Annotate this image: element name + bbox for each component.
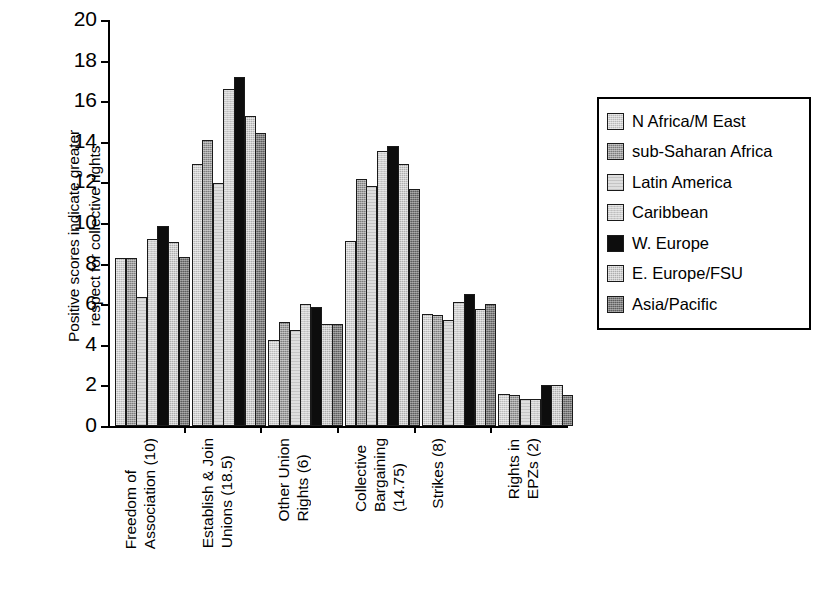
legend-item[interactable]: Latin America [607, 167, 801, 198]
y-tick-label: 12 [57, 170, 97, 192]
legend-label: Caribbean [632, 204, 708, 221]
legend-swatch-icon [607, 235, 624, 252]
y-tick-label: 6 [57, 292, 97, 314]
legend-swatch-icon [607, 174, 624, 191]
x-tick-mark [490, 426, 492, 433]
legend-swatch-icon [607, 265, 624, 282]
bar-chart-figure: Positive scores indicate greater respect… [0, 0, 830, 598]
bar [179, 257, 190, 427]
bar [356, 179, 367, 426]
bar [157, 226, 168, 426]
bar [300, 304, 311, 426]
bar [126, 258, 137, 426]
x-category-label: Freedom of Association (10) [121, 438, 159, 549]
y-tick-label: 16 [57, 89, 97, 111]
bar-group [115, 20, 189, 426]
legend-label: Asia/Pacific [632, 296, 717, 313]
bar [202, 140, 213, 426]
legend-item[interactable]: N Africa/M East [607, 106, 801, 137]
bar [245, 116, 256, 426]
y-tick-mark [101, 426, 108, 428]
bar [443, 320, 454, 426]
bar [147, 239, 158, 426]
y-tick-label: 18 [57, 49, 97, 71]
y-tick-mark [101, 345, 108, 347]
y-tick-mark [101, 101, 108, 103]
x-tick-mark [414, 426, 416, 433]
legend-swatch-icon [607, 113, 624, 130]
bar [520, 399, 531, 426]
bar [432, 315, 443, 426]
bar [541, 385, 552, 426]
x-tick-mark [260, 426, 262, 433]
bar [377, 151, 388, 426]
legend-item[interactable]: Asia/Pacific [607, 289, 801, 320]
legend-swatch-icon [607, 296, 624, 313]
legend-label: W. Europe [632, 235, 709, 252]
bar [332, 324, 343, 427]
y-tick-label: 8 [57, 252, 97, 274]
bar [530, 399, 541, 426]
x-tick-mark [184, 426, 186, 433]
bar [409, 189, 420, 427]
bar-group [422, 20, 496, 426]
legend-label: E. Europe/FSU [632, 265, 743, 282]
bar [255, 133, 266, 426]
bar [551, 385, 562, 426]
bar-group [192, 20, 266, 426]
legend-label: sub-Saharan Africa [632, 143, 772, 160]
bar [366, 186, 377, 426]
bar [475, 309, 486, 426]
plot-area: 02468101214161820 [108, 20, 568, 428]
y-tick-label: 0 [57, 414, 97, 436]
bar [509, 395, 520, 426]
y-tick-mark [101, 385, 108, 387]
legend-label: Latin America [632, 174, 732, 191]
x-category-label: Rights in EPZs (2) [504, 438, 542, 499]
legend-swatch-icon [607, 204, 624, 221]
bar [279, 322, 290, 426]
y-tick-mark [101, 182, 108, 184]
legend-item[interactable]: W. Europe [607, 228, 801, 259]
bar [213, 183, 224, 426]
y-tick-mark [101, 304, 108, 306]
bar-group [268, 20, 342, 426]
bar [192, 164, 203, 426]
bar [311, 307, 322, 426]
legend-item[interactable]: E. Europe/FSU [607, 259, 801, 290]
bar [168, 242, 179, 426]
legend-label: N Africa/M East [632, 113, 746, 130]
y-tick-mark [101, 20, 108, 22]
bar [234, 77, 245, 426]
bar [115, 258, 126, 426]
y-tick-mark [101, 142, 108, 144]
bar-group [345, 20, 419, 426]
x-tick-mark [337, 426, 339, 433]
y-tick-label: 20 [57, 8, 97, 30]
bar [498, 394, 509, 426]
y-tick-label: 10 [57, 211, 97, 233]
x-category-label: Strikes (8) [428, 438, 447, 509]
bar [321, 324, 332, 427]
x-category-label: Other Union Rights (6) [274, 438, 312, 522]
legend-item[interactable]: sub-Saharan Africa [607, 137, 801, 168]
y-tick-mark [101, 264, 108, 266]
bar [562, 395, 573, 426]
y-tick-label: 2 [57, 373, 97, 395]
x-category-label: Collective Bargaining (14.75) [351, 438, 408, 512]
bar-group [498, 20, 572, 426]
y-tick-mark [101, 223, 108, 225]
legend: N Africa/M Eastsub-Saharan AfricaLatin A… [597, 97, 811, 330]
bar [453, 302, 464, 426]
bar [136, 297, 147, 426]
y-tick-mark [101, 61, 108, 63]
bar [485, 304, 496, 426]
bar [398, 164, 409, 426]
bar [464, 294, 475, 426]
bar [223, 89, 234, 426]
bar [422, 314, 433, 426]
bar [290, 330, 301, 426]
legend-item[interactable]: Caribbean [607, 198, 801, 229]
bar [345, 241, 356, 426]
bar [387, 146, 398, 426]
